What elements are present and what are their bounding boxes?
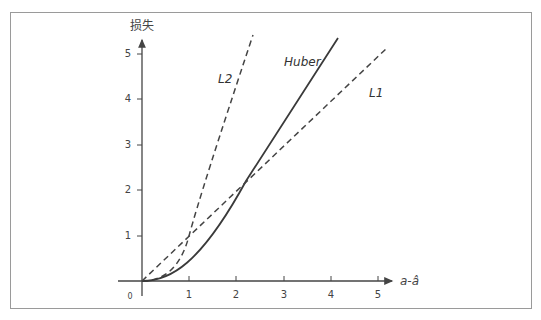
x-tick-label: 4	[328, 289, 334, 300]
y-tick-label: 3	[125, 139, 131, 150]
y-ticks	[137, 54, 142, 236]
y-tick-label: 5	[125, 48, 131, 59]
y-tick-label: 2	[125, 184, 131, 195]
x-tick-label: 2	[233, 289, 239, 300]
x-ticks	[189, 276, 378, 281]
l2-label: L2	[218, 72, 232, 86]
huber-label: Huber	[284, 55, 322, 69]
l2-curve	[142, 35, 253, 281]
x-tick-label: 1	[186, 289, 192, 300]
x-tick-label: 3	[281, 289, 287, 300]
y-tick-labels: 1 2 3 4 5	[125, 48, 131, 241]
x-tick-labels: 1 2 3 4 5	[186, 289, 381, 300]
l1-label: L1	[369, 86, 383, 100]
y-tick-label: 4	[125, 93, 131, 104]
x-axis-title: a-â	[400, 274, 419, 288]
x-tick-label: 5	[375, 289, 381, 300]
y-tick-label: 1	[125, 230, 131, 241]
y-axis-title: 损失	[130, 18, 154, 33]
l1-curve	[142, 47, 388, 281]
loss-function-diagram: 1 2 3 4 5 0 1 2 3 4 5 损失 a-â L2 Huber L1	[0, 0, 541, 320]
origin-label: 0	[127, 292, 132, 301]
